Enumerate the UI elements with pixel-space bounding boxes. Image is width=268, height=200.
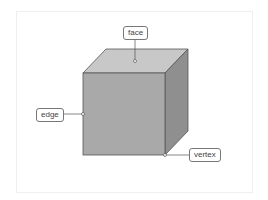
face-label: face	[123, 26, 148, 40]
cube-front-face	[83, 73, 165, 155]
edge-point	[82, 113, 85, 116]
face-point	[134, 60, 137, 63]
vertex-point	[164, 154, 167, 157]
edge-label: edge	[36, 108, 64, 122]
vertex-label: vertex	[189, 148, 221, 162]
